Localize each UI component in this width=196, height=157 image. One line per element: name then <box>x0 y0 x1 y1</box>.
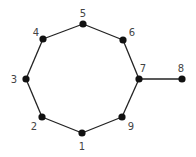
edge-2-3 <box>26 79 42 117</box>
graph-diagram: 123456789 <box>0 0 196 157</box>
node-label-4: 4 <box>33 27 39 38</box>
node-label-1: 1 <box>79 141 85 152</box>
node-label-3: 3 <box>11 74 17 85</box>
node-2 <box>38 113 45 120</box>
edge-5-6 <box>83 24 123 40</box>
node-7 <box>135 75 142 82</box>
edges-group <box>26 24 182 133</box>
edge-3-4 <box>26 39 43 79</box>
edge-4-5 <box>43 24 83 39</box>
node-label-7: 7 <box>140 63 146 74</box>
node-6 <box>119 36 126 43</box>
edge-6-7 <box>123 40 139 79</box>
node-label-5: 5 <box>80 8 86 19</box>
edge-9-1 <box>82 117 122 133</box>
node-label-9: 9 <box>128 121 134 132</box>
node-5 <box>79 20 86 27</box>
node-label-6: 6 <box>129 27 135 38</box>
node-8 <box>178 75 185 82</box>
node-9 <box>118 113 125 120</box>
node-label-8: 8 <box>178 63 184 74</box>
node-4 <box>39 35 46 42</box>
node-3 <box>22 75 29 82</box>
node-1 <box>78 129 85 136</box>
edge-1-2 <box>42 117 82 133</box>
edge-7-9 <box>122 79 139 117</box>
node-label-2: 2 <box>31 121 37 132</box>
